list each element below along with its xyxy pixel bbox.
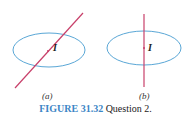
subfigure-label-b: (b): [139, 91, 150, 101]
figure-b: [107, 14, 181, 87]
figure-a: [13, 13, 85, 88]
figure-caption: FIGURE 31.32 Question 2.: [0, 103, 191, 114]
center-dot-a: [47, 50, 49, 52]
subfigure-label-a: (a): [42, 91, 53, 101]
diagram-canvas: [0, 0, 191, 117]
caption-text: Question 2.: [106, 103, 152, 114]
wire-a: [15, 13, 83, 88]
current-label-b: I: [148, 42, 152, 53]
center-dot-b: [143, 47, 145, 49]
figure-number: FIGURE 31.32: [39, 103, 103, 114]
current-label-a: I: [53, 42, 57, 53]
